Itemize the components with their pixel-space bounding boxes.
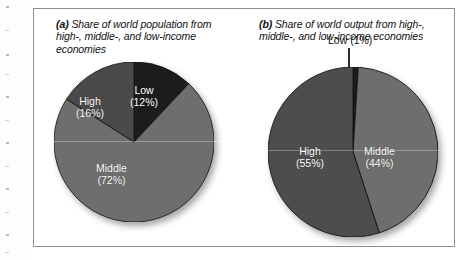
pie-b-label-high: High (55%) [296, 145, 324, 169]
pie-a-label-high-value: (16%) [76, 107, 104, 119]
pie-b-label-low-callout: Low (1%) [328, 34, 372, 46]
figure-frame: (a) Share of world population from high-… [33, 8, 455, 247]
pie-a-label-high-name: High [79, 95, 101, 107]
pie-b-label-middle-value: (44%) [364, 157, 395, 169]
pie-b-graphic [268, 67, 438, 237]
pie-a-label-low-value: (12%) [130, 96, 158, 108]
pie-b-label-high-name: High [299, 145, 321, 157]
pie-a-label-middle: Middle (72%) [96, 162, 127, 186]
pie-chart-a: Low (12%) High (16%) Middle (72%) [54, 62, 214, 222]
pie-a-label-middle-name: Middle [96, 162, 127, 174]
pie-chart-b: High (55%) Middle (44%) [268, 67, 438, 237]
panel-b-marker: (b) [259, 18, 272, 30]
panel-a-caption: (a) Share of world population from high-… [56, 18, 236, 55]
pie-b-label-middle-name: Middle [364, 145, 395, 157]
panel-a-population: (a) Share of world population from high-… [34, 9, 246, 246]
pie-a-label-middle-value: (72%) [96, 174, 127, 186]
pie-a-label-low-name: Low [134, 84, 153, 96]
pie-a-label-low: Low (12%) [130, 84, 158, 108]
panel-a-marker: (a) [56, 18, 69, 30]
panel-b-output: (b) Share of world output from high-, mi… [246, 9, 456, 246]
pie-b-label-high-value: (55%) [296, 157, 324, 169]
pie-a-label-high: High (16%) [76, 95, 104, 119]
pie-b-label-middle: Middle (44%) [364, 145, 395, 169]
pie-b-svg [268, 67, 438, 237]
panel-a-caption-text: Share of world population from high-, mi… [56, 18, 211, 55]
scan-artifact-strip [0, 0, 30, 260]
